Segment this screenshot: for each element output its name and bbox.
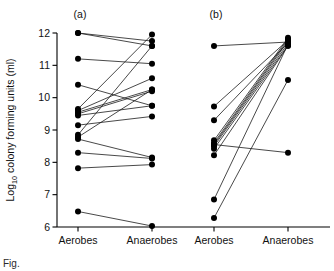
data-point bbox=[149, 43, 155, 49]
data-point bbox=[75, 136, 81, 142]
x-axis-label-b-aerobes: Aerobes bbox=[194, 234, 233, 246]
x-axis-label-b-anaerobes: Anaerobes bbox=[263, 234, 314, 246]
slope-line bbox=[214, 39, 288, 142]
slope-line bbox=[78, 211, 152, 226]
slope-line bbox=[214, 42, 288, 46]
data-point bbox=[285, 77, 291, 83]
panel-a bbox=[75, 30, 155, 229]
data-point bbox=[149, 32, 155, 38]
data-point bbox=[211, 142, 217, 148]
data-point bbox=[75, 208, 81, 214]
slope-line bbox=[214, 38, 288, 140]
slope-line bbox=[214, 41, 288, 144]
slope-line bbox=[214, 43, 288, 146]
panel-label-a: (a) bbox=[74, 8, 87, 20]
data-point bbox=[211, 152, 217, 158]
slope-line bbox=[78, 165, 152, 169]
data-point bbox=[149, 113, 155, 119]
figure-root: 6789101112AerobesAnaerobesAerobesAnaerob… bbox=[0, 0, 334, 271]
data-point bbox=[149, 87, 155, 93]
data-point bbox=[149, 223, 155, 229]
data-point bbox=[211, 103, 217, 109]
panel-b bbox=[211, 35, 291, 221]
y-tick-label-8: 8 bbox=[44, 156, 50, 168]
y-tick-label-10: 10 bbox=[38, 91, 50, 103]
slope-line bbox=[78, 33, 152, 46]
y-tick-label-9: 9 bbox=[44, 124, 50, 136]
data-point bbox=[211, 215, 217, 221]
data-point bbox=[75, 56, 81, 62]
data-point bbox=[211, 197, 217, 203]
y-axis-title: Log10 colony forming units (ml) bbox=[4, 59, 19, 202]
data-point bbox=[149, 75, 155, 81]
data-point bbox=[75, 150, 81, 156]
data-point bbox=[149, 103, 155, 109]
y-tick-label-7: 7 bbox=[44, 188, 50, 200]
slope-line bbox=[78, 35, 152, 109]
data-point bbox=[149, 162, 155, 168]
x-axis-label-a-anaerobes: Anaerobes bbox=[127, 234, 178, 246]
slope-line bbox=[78, 139, 152, 157]
slope-line bbox=[78, 90, 152, 138]
paired-slope-chart: 6789101112AerobesAnaerobesAerobesAnaerob… bbox=[0, 0, 334, 271]
data-point bbox=[211, 117, 217, 123]
slope-line bbox=[78, 116, 152, 125]
data-point bbox=[75, 82, 81, 88]
figure-caption: Fig. bbox=[3, 258, 333, 271]
y-tick-label-11: 11 bbox=[39, 59, 50, 71]
data-point bbox=[285, 41, 291, 47]
data-point bbox=[75, 30, 81, 36]
y-axis-title-text: Log10 colony forming units (ml) bbox=[4, 59, 19, 202]
slope-line bbox=[214, 44, 288, 199]
slope-line bbox=[214, 45, 288, 148]
data-point bbox=[75, 165, 81, 171]
y-tick-label-12: 12 bbox=[38, 27, 50, 39]
data-point bbox=[285, 150, 291, 156]
data-point bbox=[149, 61, 155, 67]
slope-line bbox=[78, 153, 152, 159]
data-point bbox=[75, 112, 81, 118]
slope-line bbox=[78, 90, 152, 113]
x-axis-label-a-aerobes: Aerobes bbox=[58, 234, 97, 246]
data-point bbox=[75, 122, 81, 128]
data-point bbox=[149, 155, 155, 161]
data-point bbox=[211, 43, 217, 49]
panel-label-b: (b) bbox=[210, 8, 223, 20]
y-tick-label-6: 6 bbox=[44, 221, 50, 233]
